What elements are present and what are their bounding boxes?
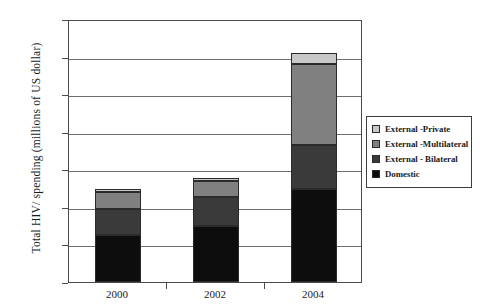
x-tick-mark bbox=[166, 283, 167, 289]
bar-segment bbox=[291, 64, 337, 145]
chart-legend: External -PrivateExternal -MultilateralE… bbox=[366, 116, 472, 188]
y-tick-mark bbox=[62, 283, 68, 284]
hiv-spending-stacked-bar-chart: Total HIV/ spending (millions of US doll… bbox=[0, 0, 480, 308]
y-tick-mark bbox=[62, 58, 68, 59]
legend-item-label: Domestic bbox=[385, 170, 420, 179]
legend-item: External - Bilateral bbox=[372, 152, 467, 166]
y-tick-mark bbox=[62, 170, 68, 171]
y-tick-mark bbox=[62, 245, 68, 246]
bar-segment bbox=[193, 181, 239, 197]
bar-segment bbox=[291, 189, 337, 282]
y-axis-title: Total HIV/ spending (millions of US doll… bbox=[30, 8, 42, 288]
legend-swatch-icon bbox=[372, 155, 380, 163]
legend-item: External -Multilateral bbox=[372, 137, 467, 151]
legend-item-label: External -Multilateral bbox=[385, 140, 468, 149]
plot-area bbox=[68, 20, 362, 283]
bar-segment bbox=[95, 235, 141, 282]
y-tick-mark bbox=[62, 208, 68, 209]
bar-segment bbox=[95, 189, 141, 192]
legend-swatch-icon bbox=[372, 170, 380, 178]
legend-item-label: External -Private bbox=[385, 125, 450, 134]
y-tick-mark bbox=[62, 20, 68, 21]
bar-segment bbox=[193, 178, 239, 182]
legend-item: Domestic bbox=[372, 167, 467, 181]
bar-segment bbox=[95, 192, 141, 209]
x-tick-label: 2000 bbox=[82, 288, 152, 300]
x-tick-mark bbox=[264, 283, 265, 289]
legend-item-label: External - Bilateral bbox=[385, 155, 458, 164]
legend-item: External -Private bbox=[372, 122, 467, 136]
x-tick-label: 2002 bbox=[180, 288, 250, 300]
bar-segment bbox=[193, 197, 239, 226]
x-tick-label: 2004 bbox=[278, 288, 348, 300]
legend-swatch-icon bbox=[372, 140, 380, 148]
bar-segment bbox=[193, 226, 239, 282]
bar-segment bbox=[95, 209, 141, 235]
bar-segment bbox=[291, 145, 337, 189]
y-tick-mark bbox=[62, 95, 68, 96]
legend-swatch-icon bbox=[372, 125, 380, 133]
y-tick-mark bbox=[62, 133, 68, 134]
bar-segment bbox=[291, 53, 337, 64]
